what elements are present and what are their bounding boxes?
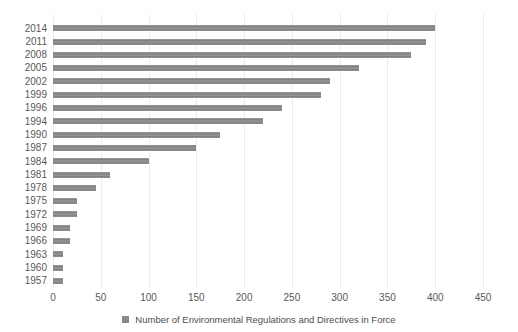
x-tick-label: 300 — [331, 292, 348, 303]
y-tick-label: 2008 — [0, 48, 47, 61]
y-tick-label: 1996 — [0, 101, 47, 114]
y-tick-label: 2011 — [0, 35, 47, 48]
bar-row — [53, 194, 483, 207]
bar-row — [53, 48, 483, 61]
bar-row — [53, 75, 483, 88]
bar-2011 — [53, 39, 426, 45]
y-tick-label: 1966 — [0, 234, 47, 247]
bar-1978 — [53, 185, 96, 191]
bar-1966 — [53, 238, 70, 244]
x-axis-labels: 050100150200250300350400450 — [53, 292, 483, 304]
x-tick-label: 200 — [236, 292, 253, 303]
y-tick-label: 1978 — [0, 181, 47, 194]
bar-1987 — [53, 145, 196, 151]
y-tick-label: 2002 — [0, 75, 47, 88]
bar-1963 — [53, 251, 63, 257]
legend-label: Number of Environmental Regulations and … — [135, 314, 395, 325]
x-tick-label: 250 — [284, 292, 301, 303]
bar-row — [53, 248, 483, 261]
bar-row — [53, 181, 483, 194]
y-tick-label: 1999 — [0, 88, 47, 101]
bar-row — [53, 35, 483, 48]
bar-row — [53, 88, 483, 101]
plot-area — [53, 14, 483, 288]
y-tick-label: 1969 — [0, 221, 47, 234]
x-tick-label: 0 — [50, 292, 56, 303]
x-tick-label: 450 — [475, 292, 492, 303]
bar-row — [53, 261, 483, 274]
y-axis-labels: 2014201120082005200219991996199419901987… — [0, 14, 47, 288]
bar-1990 — [53, 132, 220, 138]
y-tick-label: 1963 — [0, 248, 47, 261]
bar-chart: 2014201120082005200219991996199419901987… — [0, 0, 518, 332]
bar-1999 — [53, 92, 321, 98]
x-tick-label: 50 — [95, 292, 106, 303]
legend: Number of Environmental Regulations and … — [0, 312, 518, 326]
x-tick-label: 350 — [379, 292, 396, 303]
y-tick-label: 1975 — [0, 194, 47, 207]
bar-row — [53, 274, 483, 287]
bar-1960 — [53, 265, 63, 271]
bar-row — [53, 155, 483, 168]
bar-1972 — [53, 211, 77, 217]
bar-1984 — [53, 158, 149, 164]
y-tick-label: 1994 — [0, 115, 47, 128]
bar-1981 — [53, 172, 110, 178]
bar-row — [53, 115, 483, 128]
bar-row — [53, 234, 483, 247]
y-tick-label: 1960 — [0, 261, 47, 274]
legend-square-icon — [122, 316, 129, 323]
y-tick-label: 2014 — [0, 22, 47, 35]
bar-row — [53, 221, 483, 234]
bar-row — [53, 141, 483, 154]
bar-row — [53, 101, 483, 114]
y-tick-label: 1984 — [0, 155, 47, 168]
x-tick-label: 100 — [140, 292, 157, 303]
bar-series — [53, 22, 483, 288]
bar-1957 — [53, 278, 63, 284]
y-tick-label: 1957 — [0, 274, 47, 287]
x-tick-label: 150 — [188, 292, 205, 303]
bar-2008 — [53, 52, 411, 58]
bar-row — [53, 61, 483, 74]
y-tick-label: 1972 — [0, 208, 47, 221]
bar-row — [53, 168, 483, 181]
y-tick-label: 1987 — [0, 141, 47, 154]
y-tick-label: 1990 — [0, 128, 47, 141]
bar-row — [53, 208, 483, 221]
x-tick-label: 400 — [427, 292, 444, 303]
bar-2002 — [53, 78, 330, 84]
bar-1996 — [53, 105, 282, 111]
bar-1994 — [53, 118, 263, 124]
gridline-x-450 — [483, 14, 484, 288]
bar-1975 — [53, 198, 77, 204]
y-tick-label: 1981 — [0, 168, 47, 181]
bar-1969 — [53, 225, 70, 231]
y-tick-label: 2005 — [0, 61, 47, 74]
bar-row — [53, 128, 483, 141]
bar-2005 — [53, 65, 359, 71]
bar-2014 — [53, 25, 435, 31]
bar-row — [53, 22, 483, 35]
